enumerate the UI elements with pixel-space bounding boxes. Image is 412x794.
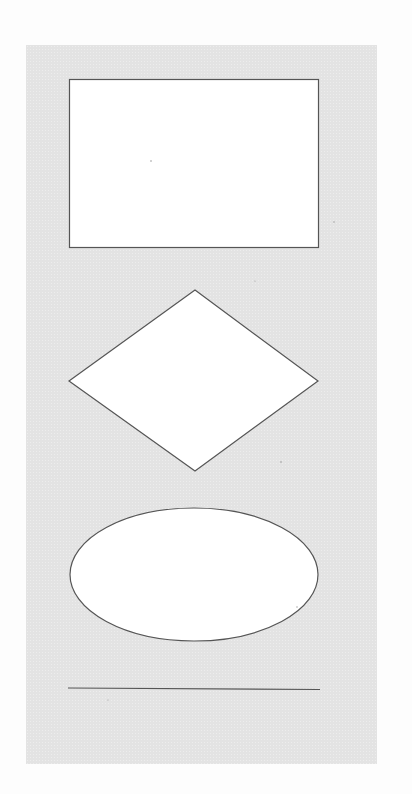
diagram-canvas: [0, 0, 412, 794]
diamond-shape[interactable]: [69, 290, 318, 471]
shapes-layer: [0, 0, 412, 794]
rectangle-shape[interactable]: [70, 80, 319, 248]
ellipse-shape[interactable]: [70, 508, 318, 641]
line-shape[interactable]: [68, 688, 320, 690]
